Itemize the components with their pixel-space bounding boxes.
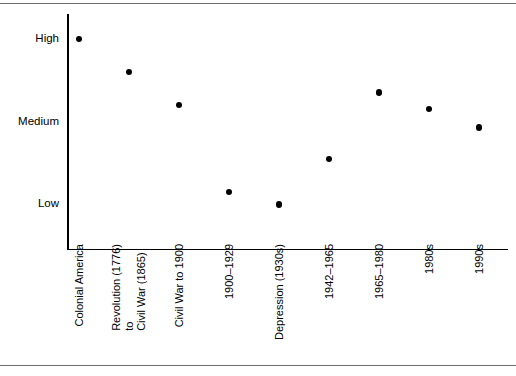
plot-area: HighMediumLow <box>67 14 508 250</box>
data-point <box>426 106 433 113</box>
data-point <box>276 201 283 208</box>
top-divider-rule <box>0 3 516 4</box>
bottom-divider-rule <box>0 365 516 366</box>
y-axis-tick-label: Low <box>38 199 59 211</box>
y-axis-tick-label: Medium <box>18 116 59 128</box>
y-axis-tick-label: High <box>35 33 59 45</box>
x-axis-category-label-line: 1980s <box>423 244 436 274</box>
x-axis-category-label-line: 1965–1980 <box>373 244 386 299</box>
x-axis-category-label-line: 1990s <box>473 244 486 274</box>
data-point <box>76 36 83 43</box>
x-axis-category-label-line: Revolution (1776) <box>110 244 123 331</box>
data-point <box>226 189 233 196</box>
data-point <box>326 156 333 163</box>
x-axis-category-label-line: Civil War (1865) <box>135 244 148 331</box>
data-point <box>176 102 183 109</box>
x-axis-category-label-line: Depression (1930s) <box>273 244 286 340</box>
x-axis-category-label-line: 1900–1929 <box>223 244 236 299</box>
x-axis-category-label-line: Colonial America <box>73 244 86 327</box>
chart-figure: HighMediumLow Colonial AmericaRevolution… <box>0 0 516 376</box>
data-point <box>376 89 383 96</box>
data-point <box>126 69 133 76</box>
x-axis-category-label-line: to <box>123 244 136 331</box>
data-point <box>476 124 483 131</box>
y-axis-line <box>67 14 69 250</box>
x-axis-category-label-line: Civil War to 1900 <box>173 244 186 327</box>
x-axis-category-label-line: 1942–1965 <box>323 244 336 299</box>
